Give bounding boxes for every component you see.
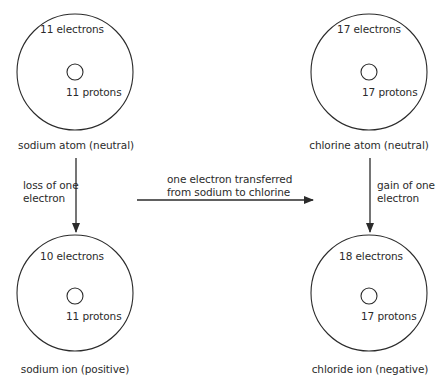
chlorine-atom-protons: 17 protons	[362, 86, 418, 99]
sodium-ion-caption: sodium ion (positive)	[21, 363, 129, 376]
chloride-ion-nucleus	[361, 288, 377, 304]
sodium-atom-protons: 11 protons	[66, 86, 122, 99]
loss-label-line1: loss of one	[23, 179, 79, 192]
chlorine-atom-electrons: 17 electrons	[337, 23, 401, 36]
loss-label-line2: electron	[23, 192, 65, 205]
sodium-atom-electrons: 11 electrons	[40, 23, 104, 36]
sodium-ion-nucleus	[67, 288, 83, 304]
sodium-ion-protons: 11 protons	[66, 310, 122, 323]
chlorine-atom-nucleus	[361, 64, 377, 80]
chloride-ion-caption: chloride ion (negative)	[312, 363, 429, 376]
gain-label-line1: gain of one	[377, 179, 435, 192]
sodium-ion-electrons: 10 electrons	[40, 250, 104, 263]
sodium-atom-caption: sodium atom (neutral)	[18, 139, 134, 152]
transfer-label-line1: one electron transferred	[167, 173, 292, 186]
chloride-ion-protons: 17 protons	[361, 310, 417, 323]
transfer-label-line2: from sodium to chlorine	[167, 186, 290, 199]
sodium-atom-nucleus	[67, 64, 83, 80]
gain-label-line2: electron	[377, 192, 419, 205]
chlorine-atom-caption: chlorine atom (neutral)	[309, 139, 428, 152]
chloride-ion-electrons: 18 electrons	[339, 250, 403, 263]
